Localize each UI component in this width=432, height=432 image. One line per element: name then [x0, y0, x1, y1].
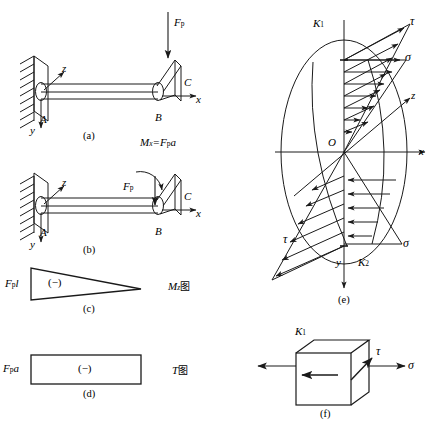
panel-a-point-a-label: A — [40, 113, 47, 125]
panel-a-axes — [41, 72, 196, 128]
panel-b-fixed-support — [20, 176, 34, 240]
panel-e-axis-y-label: y — [336, 256, 341, 268]
panel-c-value-label: Fpl — [5, 277, 19, 289]
panel-e-k1-label: K1 — [313, 17, 324, 29]
panel-a-caption: (a) — [83, 130, 95, 141]
panel-c-caption: (c) — [83, 303, 95, 314]
panel-a-force-label: Fp — [174, 16, 184, 28]
panel-f-tau-arrows — [302, 358, 372, 380]
panel-f-drawing — [258, 340, 405, 405]
panel-a-point-c-label: C — [184, 76, 191, 88]
panel-e-shear-envelope — [312, 60, 384, 246]
panel-f-sigma-label: σ — [408, 358, 414, 373]
panel-d-sign-label: (−) — [78, 362, 92, 374]
figure-root: Fp A B C x y z (a) Mx=Fpa Fp A B C x y z… — [0, 0, 432, 432]
panel-e-tau-lower-label: τ — [283, 232, 287, 247]
panel-f-tau-label: τ — [376, 344, 380, 359]
panel-a-point-b-label: B — [155, 111, 162, 123]
panel-b-axis-z-label: z — [62, 176, 66, 188]
panel-b-bar-ab — [36, 197, 164, 215]
panel-e-k2-label: K2 — [358, 256, 369, 268]
panel-a-axis-x-label: x — [196, 93, 201, 105]
panel-c-diagram-label: Mz图 — [168, 278, 190, 293]
panel-a-arm-bc — [157, 60, 181, 101]
panel-e-tau-upper — [344, 24, 410, 152]
panel-e-tau-lower — [272, 152, 344, 280]
panel-e-sigma-lower — [344, 152, 402, 244]
panel-a-axis-z-label: z — [62, 62, 66, 74]
panel-d-value-label: Fpa — [3, 362, 19, 374]
panel-b-moment-label: Mx=Fpa — [140, 136, 176, 148]
panel-c-sign-label: (−) — [48, 276, 62, 288]
panel-b-force-label: Fp — [123, 180, 133, 192]
panel-a-axis-y-label: y — [30, 124, 35, 136]
panel-e-caption: (e) — [338, 294, 350, 305]
panel-f-k1-label: K1 — [295, 325, 306, 337]
panel-d-diagram-label: T图 — [172, 362, 188, 377]
panel-b-axis-y-label: y — [30, 238, 35, 250]
panel-e-sigma-upper — [344, 60, 406, 152]
panel-b-arm-bc — [157, 174, 181, 215]
panel-b-point-a-label: A — [40, 226, 47, 238]
panel-a-bar-ab — [36, 83, 164, 101]
panel-e-sigma-upper-label: σ — [405, 50, 411, 65]
panel-a-fixed-support — [20, 56, 34, 128]
panel-b-axes — [41, 186, 196, 242]
panel-e-sigma-lower-label: σ — [403, 236, 409, 251]
panel-b-axis-x-label: x — [196, 207, 201, 219]
panel-e-axis-z-label: z — [411, 89, 415, 101]
panel-e-axis-x-label: x — [419, 145, 424, 157]
panel-e-tau-upper-label: τ — [410, 14, 414, 29]
panel-a-drawing — [20, 12, 196, 128]
panel-b-torque-arc — [136, 172, 162, 190]
panel-f-caption: (f) — [320, 408, 331, 419]
panel-e-origin-label: O — [328, 136, 336, 148]
panel-b-point-b-label: B — [155, 225, 162, 237]
panel-b-point-c-label: C — [184, 190, 191, 202]
panel-d-caption: (d) — [83, 388, 95, 399]
panel-b-caption: (b) — [83, 244, 95, 255]
